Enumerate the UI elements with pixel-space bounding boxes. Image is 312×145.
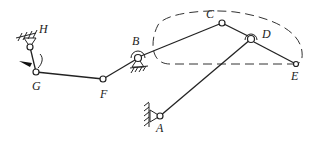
- label-E: E: [291, 70, 298, 82]
- label-C: C: [206, 8, 214, 20]
- joint-C: [219, 20, 225, 26]
- joint-D: [248, 36, 255, 43]
- label-D: D: [262, 28, 271, 40]
- ground-H-icon: [16, 30, 37, 47]
- link-GF: [36, 72, 103, 79]
- label-H: H: [39, 23, 48, 35]
- label-B: B: [132, 35, 139, 47]
- link-CD: [222, 23, 248, 36]
- linkage-diagram: H G F B C D E A: [0, 0, 312, 145]
- rotation-arrow-icon: [38, 54, 42, 68]
- link-DE: [254, 42, 296, 64]
- label-A: A: [156, 122, 163, 134]
- label-G: G: [32, 80, 41, 92]
- joint-F: [100, 76, 106, 82]
- joint-A: [157, 113, 163, 119]
- joint-H: [27, 44, 33, 50]
- label-F: F: [100, 88, 107, 100]
- direction-arrowhead-icon: [19, 61, 32, 67]
- joint-B: [135, 55, 142, 62]
- link-AD: [160, 39, 251, 116]
- link-HG: [30, 47, 36, 72]
- link-FB: [103, 60, 135, 79]
- joint-E: [294, 62, 299, 67]
- joint-G: [33, 69, 39, 75]
